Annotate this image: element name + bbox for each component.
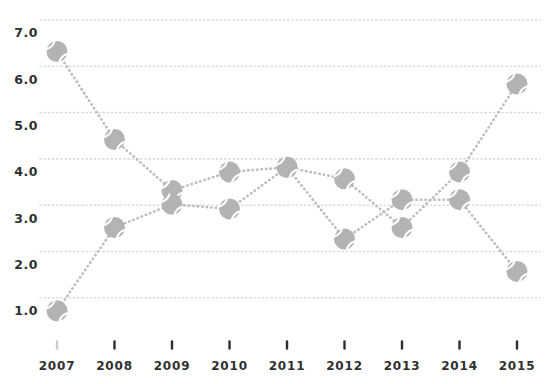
tennis-ball-icon: [507, 261, 528, 282]
tennis-ball-body: [162, 194, 183, 215]
y-axis-label: 5.0: [14, 118, 38, 133]
tennis-ball-icon: [449, 161, 470, 182]
tennis-ball-icon: [392, 217, 413, 238]
tennis-ball-icon: [104, 217, 125, 238]
tennis-ball-body: [334, 168, 355, 189]
tennis-line-chart: 7.06.05.04.03.02.01.02007200820092010201…: [0, 0, 546, 384]
y-axis-label: 3.0: [14, 211, 38, 226]
tennis-ball-body: [334, 229, 355, 250]
tennis-ball-icon: [334, 229, 355, 250]
series-2-line: [57, 167, 517, 311]
tennis-ball-icon: [47, 300, 68, 321]
x-axis-label: 2015: [499, 359, 536, 373]
x-axis-label: 2007: [39, 359, 76, 373]
tennis-ball-body: [449, 189, 470, 210]
tennis-ball-body: [449, 161, 470, 182]
y-axis-label: 1.0: [14, 303, 38, 318]
y-axis-labels-group: 7.06.05.04.03.02.01.0: [14, 25, 38, 318]
x-axis-label: 2012: [326, 359, 363, 373]
tennis-ball-body: [219, 161, 240, 182]
tennis-ball-body: [507, 261, 528, 282]
y-axis-label: 4.0: [14, 164, 38, 179]
tennis-ball-icon: [162, 194, 183, 215]
tennis-ball-body: [507, 73, 528, 94]
tennis-ball-icon: [277, 157, 298, 178]
y-axis-label: 6.0: [14, 72, 38, 87]
tennis-ball-body: [219, 198, 240, 219]
y-axis-label: 7.0: [14, 25, 38, 40]
tennis-ball-body: [392, 217, 413, 238]
x-axis-label: 2008: [96, 359, 133, 373]
tennis-ball-body: [277, 157, 298, 178]
chart-canvas: 7.06.05.04.03.02.01.02007200820092010201…: [0, 0, 546, 384]
tennis-ball-icon: [104, 129, 125, 150]
x-ticks-group: [57, 342, 517, 349]
tennis-ball-icon: [507, 73, 528, 94]
tennis-ball-icon: [47, 41, 68, 62]
tennis-ball-icon: [219, 198, 240, 219]
tennis-ball-body: [104, 129, 125, 150]
x-axis-label: 2011: [269, 359, 306, 373]
x-axis-label: 2014: [441, 359, 478, 373]
tennis-ball-icon: [334, 168, 355, 189]
x-axis-label: 2009: [154, 359, 191, 373]
y-axis-label: 2.0: [14, 257, 38, 272]
x-axis-label: 2010: [211, 359, 248, 373]
tennis-ball-icon: [449, 189, 470, 210]
tennis-ball-body: [392, 189, 413, 210]
markers-group: [47, 41, 528, 321]
tennis-ball-body: [104, 217, 125, 238]
tennis-ball-body: [47, 41, 68, 62]
tennis-ball-body: [47, 300, 68, 321]
x-axis-labels-group: 200720082009201020112012201320142015: [39, 359, 536, 373]
series-lines-group: [57, 52, 517, 311]
tennis-ball-icon: [392, 189, 413, 210]
x-axis-label: 2013: [384, 359, 421, 373]
tennis-ball-icon: [219, 161, 240, 182]
series-1-line: [57, 52, 517, 228]
